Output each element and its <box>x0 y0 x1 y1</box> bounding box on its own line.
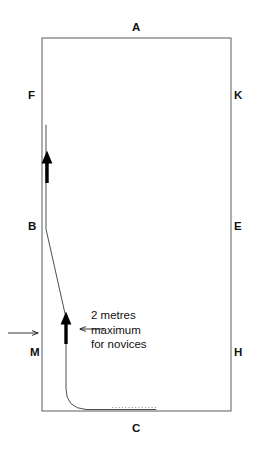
distance-annotation-line-3: for novices <box>91 337 147 352</box>
arena-marker-h: H <box>234 347 242 359</box>
dressage-arena-figure: A F K B E M H C 2 metres maximum for nov… <box>0 0 258 450</box>
arena-marker-b: B <box>28 221 36 233</box>
ridden-track-path <box>46 125 156 410</box>
distance-annotation-line-2: maximum <box>91 323 147 338</box>
distance-annotation: 2 metres maximum for novices <box>91 308 147 352</box>
arena-marker-a: A <box>132 22 140 34</box>
direction-arrow-upper-icon <box>42 151 53 184</box>
arena-marker-e: E <box>234 221 242 233</box>
arena-rail-rectangle <box>42 38 231 411</box>
distance-annotation-line-1: 2 metres <box>91 308 147 323</box>
arena-marker-m: M <box>30 347 40 359</box>
arena-marker-c: C <box>132 423 140 435</box>
arena-marker-f: F <box>28 90 35 102</box>
arena-diagram-svg <box>0 0 258 450</box>
direction-arrow-lower-icon <box>61 312 72 345</box>
arena-marker-k: K <box>234 90 242 102</box>
